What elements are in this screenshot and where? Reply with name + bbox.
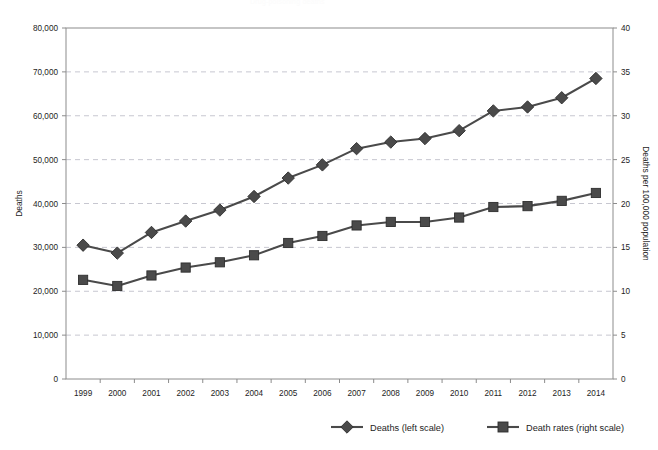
- data-point-marker: [214, 204, 226, 216]
- x-axis-tick-label: 2000: [108, 389, 127, 398]
- left-axis-ticks: [62, 28, 66, 379]
- data-point-marker: [77, 239, 89, 251]
- data-point-marker: [215, 258, 224, 267]
- data-point-marker: [78, 275, 87, 284]
- right-axis-tick-label: 35: [621, 68, 631, 77]
- x-axis-tick-label: 1999: [74, 389, 93, 398]
- left-axis-tick-label: 0: [53, 375, 58, 384]
- left-axis-tick-label: 40,000: [33, 200, 58, 209]
- data-point-marker: [350, 142, 362, 154]
- chart-legend: Deaths (left scale)Death rates (right sc…: [331, 421, 624, 433]
- line-chart-svg: 010,00020,00030,00040,00050,00060,00070,…: [0, 0, 658, 450]
- series-line: [83, 78, 596, 253]
- data-point-marker: [591, 188, 600, 197]
- x-axis-tick-label: 2008: [382, 389, 401, 398]
- data-point-marker: [318, 231, 327, 240]
- data-point-marker: [386, 217, 395, 226]
- left-axis-tick-label: 80,000: [33, 24, 58, 33]
- right-axis-tick-label: 5: [621, 331, 626, 340]
- data-point-marker: [556, 92, 568, 104]
- x-axis-tick-label: 2013: [553, 389, 572, 398]
- data-point-marker: [113, 281, 122, 290]
- legend-marker-square: [498, 422, 508, 432]
- data-point-marker: [455, 213, 464, 222]
- data-point-marker: [249, 251, 258, 260]
- right-axis-tick-labels: 0510152025303540: [621, 24, 631, 384]
- left-axis-tick-labels: 010,00020,00030,00040,00050,00060,00070,…: [33, 24, 58, 384]
- right-axis-ticks: [613, 28, 617, 379]
- left-axis-tick-label: 20,000: [33, 287, 58, 296]
- x-axis-ticks: [100, 379, 579, 383]
- left-axis-tick-label: 50,000: [33, 156, 58, 165]
- left-axis-title: Deaths: [14, 190, 24, 217]
- data-point-marker: [316, 159, 328, 171]
- left-axis-tick-label: 70,000: [33, 68, 58, 77]
- x-axis-tick-labels: 1999200020012002200320042005200620072008…: [74, 389, 605, 398]
- right-axis-title: Deaths per 100,000 population: [641, 146, 651, 261]
- data-point-marker: [181, 263, 190, 272]
- data-point-marker: [147, 271, 156, 280]
- legend-item-1[interactable]: Deaths (left scale): [331, 421, 444, 433]
- data-point-marker: [489, 202, 498, 211]
- right-axis-tick-label: 40: [621, 24, 631, 33]
- right-axis-tick-label: 10: [621, 287, 631, 296]
- data-point-marker: [284, 238, 293, 247]
- chart-container: Drug-poisoning deaths 010,00020,00030,00…: [0, 0, 658, 450]
- x-axis-tick-label: 2010: [450, 389, 469, 398]
- legend-label: Death rates (right scale): [526, 423, 624, 433]
- x-axis-tick-label: 2007: [347, 389, 366, 398]
- left-axis-tick-label: 10,000: [33, 331, 58, 340]
- data-point-marker: [453, 124, 465, 136]
- data-point-marker: [111, 247, 123, 259]
- data-point-marker: [282, 172, 294, 184]
- x-axis-tick-label: 2011: [485, 389, 503, 398]
- right-axis-tick-label: 20: [621, 200, 631, 209]
- x-axis-tick-label: 2006: [313, 389, 332, 398]
- x-axis-tick-label: 2005: [279, 389, 298, 398]
- legend-label: Deaths (left scale): [370, 423, 444, 433]
- data-point-marker: [523, 202, 532, 211]
- data-series-group: [77, 72, 602, 290]
- data-point-marker: [419, 132, 431, 144]
- legend-marker-diamond: [341, 421, 353, 433]
- data-point-marker: [487, 105, 499, 117]
- data-point-marker: [521, 101, 533, 113]
- right-axis-tick-label: 15: [621, 243, 631, 252]
- data-point-marker: [557, 196, 566, 205]
- right-axis-tick-label: 0: [621, 375, 626, 384]
- x-axis-tick-label: 2012: [518, 389, 537, 398]
- data-point-marker: [248, 190, 260, 202]
- legend-item-2[interactable]: Death rates (right scale): [487, 422, 624, 433]
- x-axis-tick-label: 2001: [142, 389, 161, 398]
- data-point-marker: [590, 72, 602, 84]
- left-axis-tick-label: 30,000: [33, 243, 58, 252]
- series-line: [83, 193, 596, 286]
- x-axis-tick-label: 2002: [177, 389, 196, 398]
- right-axis-tick-label: 30: [621, 112, 631, 121]
- data-point-marker: [420, 217, 429, 226]
- x-axis-tick-label: 2014: [587, 389, 606, 398]
- data-point-marker: [145, 226, 157, 238]
- x-axis-tick-label: 2009: [416, 389, 435, 398]
- data-point-marker: [179, 215, 191, 227]
- x-axis-tick-label: 2003: [211, 389, 230, 398]
- x-axis-tick-label: 2004: [245, 389, 264, 398]
- right-axis-tick-label: 25: [621, 156, 631, 165]
- data-point-marker: [385, 136, 397, 148]
- left-axis-tick-label: 60,000: [33, 112, 58, 121]
- data-point-marker: [352, 221, 361, 230]
